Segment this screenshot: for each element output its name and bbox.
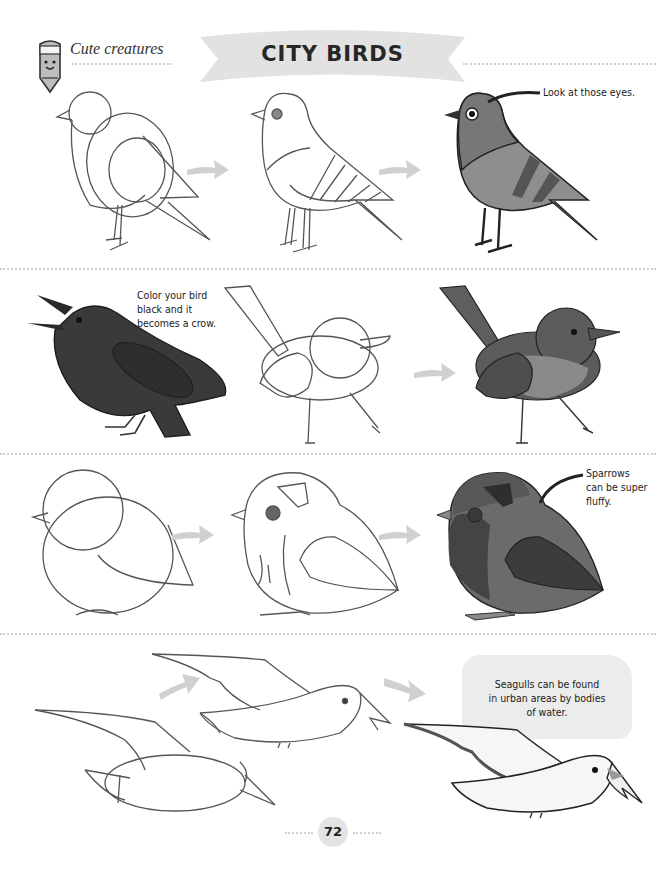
crayon-mascot-icon bbox=[36, 38, 64, 94]
seagull-note-line: Seagulls can be found bbox=[462, 677, 632, 691]
arrow-right-icon bbox=[375, 155, 425, 185]
robin-step-2-colored bbox=[438, 278, 628, 448]
page-number: 72 bbox=[318, 817, 348, 847]
arrow-right-icon bbox=[375, 520, 425, 550]
sparrow-note-line: fluffy. bbox=[586, 494, 647, 508]
section-label: Cute creatures bbox=[70, 40, 163, 58]
page-title: CITY BIRDS bbox=[200, 42, 465, 66]
header-divider-left bbox=[72, 63, 172, 65]
seagull-note-line: in urban areas by bodies bbox=[462, 691, 632, 705]
sparrow-note-line: Sparrows bbox=[586, 466, 647, 480]
seagull-step-3-colored bbox=[402, 718, 652, 828]
arrow-down-right-icon bbox=[380, 670, 430, 706]
sparrow-note: Sparrows can be super fluffy. bbox=[586, 466, 647, 508]
seagull-note-line: of water. bbox=[462, 705, 632, 719]
arrow-right-icon bbox=[183, 155, 233, 185]
row-divider bbox=[0, 268, 656, 270]
crow-note-line: Color your bird bbox=[137, 288, 216, 302]
crow-note-line: becomes a crow. bbox=[137, 316, 216, 330]
seagull-step-2-outline bbox=[150, 648, 400, 763]
crow-note-line: black and it bbox=[137, 302, 216, 316]
row-divider bbox=[0, 453, 656, 455]
pigeon-note: Look at those eyes. bbox=[543, 85, 635, 99]
footer-divider-right bbox=[353, 832, 381, 834]
seagull-note: Seagulls can be found in urban areas by … bbox=[462, 677, 632, 719]
pigeon-step-3-colored bbox=[440, 90, 610, 260]
arrow-right-icon bbox=[168, 520, 218, 550]
header-divider-right bbox=[463, 63, 656, 65]
crow-note: Color your bird black and it becomes a c… bbox=[137, 288, 216, 330]
row-divider bbox=[0, 633, 656, 635]
pointer-arrow-icon bbox=[540, 475, 583, 503]
robin-step-1-shapes bbox=[220, 278, 410, 448]
sparrow-note-line: can be super bbox=[586, 480, 647, 494]
sparrow-step-3-colored bbox=[435, 465, 610, 625]
footer-divider-left bbox=[285, 832, 313, 834]
